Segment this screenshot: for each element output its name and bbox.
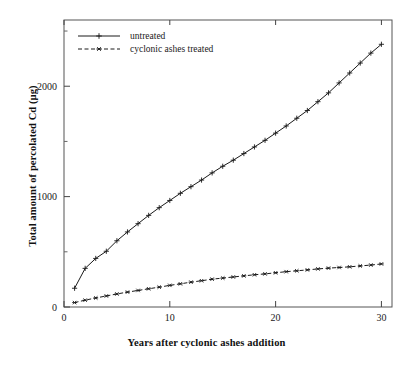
series-line: [75, 44, 382, 288]
x-tick-label: 0: [62, 312, 67, 323]
y-axis-title: Total amount of percolated Cd (µg): [27, 85, 38, 246]
x-tick-label: 10: [165, 312, 175, 323]
legend-label: cyclonic ashes treated: [130, 44, 214, 54]
chart-legend: untreatedcyclonic ashes treated: [78, 31, 214, 54]
x-axis-title: Years after cyclonic ashes addition: [0, 337, 413, 348]
legend-entry-1: untreated: [78, 31, 166, 41]
series-line: [75, 264, 382, 303]
figure-container: Total amount of percolated Cd (µg) Years…: [0, 0, 413, 367]
series-2: [72, 262, 384, 304]
y-tick-label: 0: [52, 302, 57, 313]
y-axis-title-wrapper: Total amount of percolated Cd (µg): [22, 26, 42, 306]
data-series-layer: [72, 42, 384, 305]
series-1: [72, 42, 384, 291]
x-tick-label: 30: [376, 312, 386, 323]
legend-entry-2: cyclonic ashes treated: [78, 44, 214, 54]
x-tick-label: 20: [271, 312, 281, 323]
chart-plot-area: 010002000 0102030 untreatedcyclonic ashe…: [0, 0, 413, 367]
legend-label: untreated: [130, 31, 166, 41]
